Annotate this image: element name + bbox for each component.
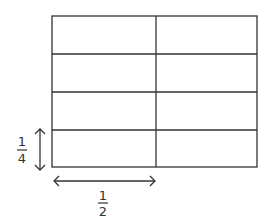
vertical-denominator: 4 — [18, 151, 26, 166]
vertical-numerator: 1 — [18, 134, 26, 149]
horizontal-numerator: 1 — [99, 188, 107, 203]
fraction-area-diagram: 1 4 1 2 — [0, 0, 273, 220]
vertical-double-arrow-icon — [35, 129, 45, 170]
grid — [52, 16, 257, 167]
horizontal-fraction-label: 1 2 — [98, 188, 108, 219]
vertical-fraction-label: 1 4 — [17, 134, 27, 166]
horizontal-denominator: 2 — [99, 204, 107, 219]
horizontal-double-arrow-icon — [54, 176, 155, 186]
